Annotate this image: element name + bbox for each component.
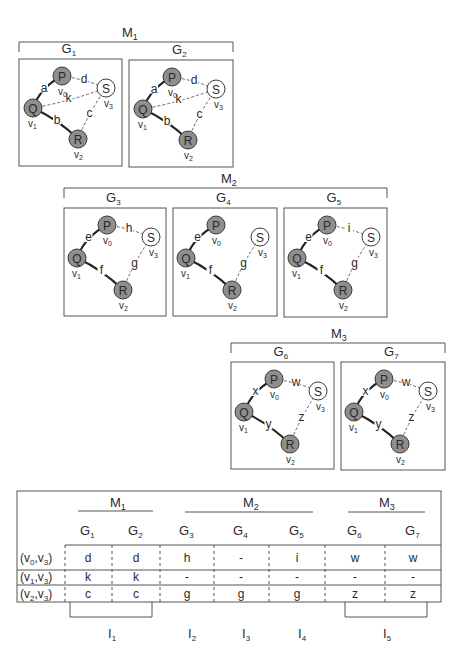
- edge-label-ps: h: [126, 221, 133, 235]
- table-row: (v2,v3)ccgggzz: [20, 587, 416, 603]
- table-group-m2: M2: [243, 495, 259, 512]
- interval-bracket-i5: [345, 602, 427, 617]
- edge-label-pq: a: [41, 81, 48, 95]
- vertex-label: v0: [212, 235, 221, 247]
- table-cell: i: [296, 551, 299, 565]
- interval-bracket-i1: [70, 602, 152, 617]
- vertex-label: v2: [286, 454, 295, 466]
- edge-label-rs: z: [299, 410, 305, 424]
- node-label: S: [367, 231, 375, 245]
- node-label: R: [228, 284, 237, 298]
- node-r: Rv2: [334, 281, 352, 312]
- node-label: P: [270, 373, 278, 387]
- table-cell: c: [85, 587, 91, 601]
- node-label: Q: [239, 406, 248, 420]
- node-label: P: [212, 219, 220, 233]
- node-p: Pv0: [98, 216, 116, 247]
- edge-label-qr: b: [164, 114, 171, 128]
- row-header: (v0,v3): [20, 551, 52, 567]
- table-cell: g: [238, 587, 245, 601]
- table-row: (v0,v3)ddh-iww: [20, 551, 418, 567]
- edge-label-rs: g: [131, 256, 138, 270]
- node-label: R: [396, 438, 405, 452]
- group-m2-label: M2: [221, 171, 237, 188]
- graph-panel-g1: G1abkcdPv0Qv1Rv2Sv3: [19, 41, 122, 166]
- node-r: Rv2: [69, 130, 87, 161]
- vertex-label: v3: [149, 247, 158, 259]
- node-q: Qv1: [177, 249, 195, 280]
- node-label: P: [103, 219, 111, 233]
- node-label: Q: [28, 102, 37, 116]
- table-cell: w: [350, 551, 360, 565]
- table-group-m3: M3: [379, 495, 395, 512]
- node-label: Q: [181, 252, 190, 266]
- graph-panel-g5: G5efgiPv0Qv1Rv2Sv3: [284, 190, 387, 317]
- group-m3: M3: [231, 326, 445, 353]
- table-cell: -: [411, 570, 415, 584]
- vertex-label: v0: [380, 389, 389, 401]
- table-cell: g: [294, 587, 301, 601]
- node-r: Rv2: [391, 435, 409, 466]
- interval-label-i3: I3: [242, 626, 251, 643]
- node-s: Sv3: [419, 382, 437, 413]
- interval-label-i5: I5: [383, 626, 392, 643]
- node-p: Pv0: [265, 370, 283, 401]
- node-label: S: [314, 385, 322, 399]
- edge-label-ps: w: [401, 375, 411, 389]
- vertex-label: v1: [28, 118, 37, 130]
- alignment-table: M1 M2 M3 G1G2G3G4G5G6G7 (v0,v3)ddh-iww(v…: [17, 491, 441, 643]
- node-s: Sv3: [362, 228, 380, 259]
- node-label: Q: [292, 252, 301, 266]
- node-label: P: [58, 70, 66, 84]
- node-label: R: [119, 284, 128, 298]
- edge-label-pq: e: [305, 230, 312, 244]
- edge-label-rs: z: [409, 410, 415, 424]
- node-label: R: [74, 133, 83, 147]
- row-header: (v1,v3): [20, 570, 52, 586]
- vertex-label: v1: [292, 268, 301, 280]
- node-label: S: [256, 231, 264, 245]
- column-header-g1: G1: [80, 523, 95, 540]
- node-s: Sv3: [207, 80, 225, 111]
- table-cell: z: [352, 587, 358, 601]
- vertex-label: v3: [214, 99, 223, 111]
- vertex-label: v0: [168, 87, 177, 99]
- edge-label-rs: g: [351, 256, 358, 270]
- graph-panel-g6: G6xyzwPv0Qv1Rv2Sv3: [231, 344, 334, 469]
- node-label: R: [339, 284, 348, 298]
- node-label: S: [102, 82, 110, 96]
- node-label: Q: [72, 252, 81, 266]
- edge-label-ps: w: [291, 375, 301, 389]
- table-cell: h: [184, 551, 191, 565]
- vertex-label: v0: [58, 86, 67, 98]
- vertex-label: v1: [72, 268, 81, 280]
- table-cell: d: [85, 551, 92, 565]
- node-label: R: [286, 438, 295, 452]
- vertex-label: v1: [239, 422, 248, 434]
- graph-panel-g7: G7xyzwPv0Qv1Rv2Sv3: [341, 344, 445, 470]
- graph-panel-g2: G2abkcdPv0Qv1Rv2Sv3: [129, 42, 233, 167]
- edge-label-pq: e: [194, 230, 201, 244]
- node-r: Rv2: [281, 435, 299, 466]
- edge-label-pq: x: [363, 384, 369, 398]
- node-q: Qv1: [134, 100, 152, 131]
- vertex-label: v2: [74, 149, 83, 161]
- graph-title-g6: G6: [274, 344, 289, 361]
- edge-label-pq: e: [85, 230, 92, 244]
- graph-title-g2: G2: [172, 42, 187, 59]
- edge-label-rs: g: [240, 256, 247, 270]
- table-group-m1: M1: [110, 495, 126, 512]
- column-header-g7: G7: [405, 523, 420, 540]
- vertex-label: v3: [258, 247, 267, 259]
- interval-label-i2: I2: [188, 626, 197, 643]
- vertex-label: v0: [323, 235, 332, 247]
- node-q: Qv1: [288, 249, 306, 280]
- table-cell: -: [295, 570, 299, 584]
- vertex-label: v0: [270, 389, 279, 401]
- edge-label-ps: d: [81, 72, 88, 86]
- table-cell: g: [184, 587, 191, 601]
- edge-label-pq: x: [253, 384, 259, 398]
- column-header-g2: G2: [128, 523, 143, 540]
- graph-title-g7: G7: [384, 344, 399, 361]
- edge-label-qr: y: [266, 417, 272, 431]
